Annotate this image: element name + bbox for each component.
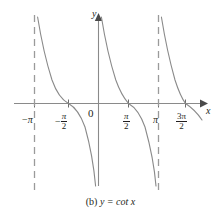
tick-label-three-pi-over-2: 3π 2: [176, 108, 187, 128]
x-axis-label: x: [206, 106, 210, 116]
pi-symbol: π: [153, 115, 158, 125]
caption-label: (b): [86, 196, 98, 207]
fraction-numerator: π: [61, 112, 68, 121]
pi-symbol: π: [28, 115, 33, 125]
fraction-pi-over-2: π 2: [61, 112, 68, 132]
fraction-numerator: π: [123, 112, 130, 121]
tick-label-neg-pi: −π: [22, 110, 33, 121]
figure-caption: (b) y = cot x: [0, 196, 221, 207]
fraction-pi-over-2: π 2: [123, 112, 130, 132]
fraction-three-pi-over-2: 3π 2: [176, 112, 187, 132]
x-axis: [14, 100, 208, 108]
origin-label: 0: [88, 108, 94, 119]
cot-branch-right: [161, 17, 202, 120]
cotangent-curve-group: [38, 17, 202, 186]
tick-label-neg-pi-over-2: − π 2: [55, 108, 67, 128]
tick-label-pi-over-2: π 2: [123, 108, 130, 128]
fraction-denominator: 2: [123, 121, 130, 131]
fraction-denominator: 2: [176, 121, 187, 131]
tick-label-pi: π: [153, 110, 158, 121]
fraction-denominator: 2: [61, 121, 68, 131]
cot-branch-left: [38, 17, 96, 186]
y-axis: [95, 13, 102, 186]
asymptotes: [35, 15, 159, 190]
fraction-numerator: 3π: [176, 112, 187, 121]
caption-equation: y = cot x: [100, 196, 135, 207]
y-axis-label: y: [92, 9, 96, 19]
cotangent-graph-figure: y x 0 −π − π 2 π 2 π 3π 2 (b) y = cot x: [0, 0, 221, 218]
plot-area: [0, 0, 221, 218]
